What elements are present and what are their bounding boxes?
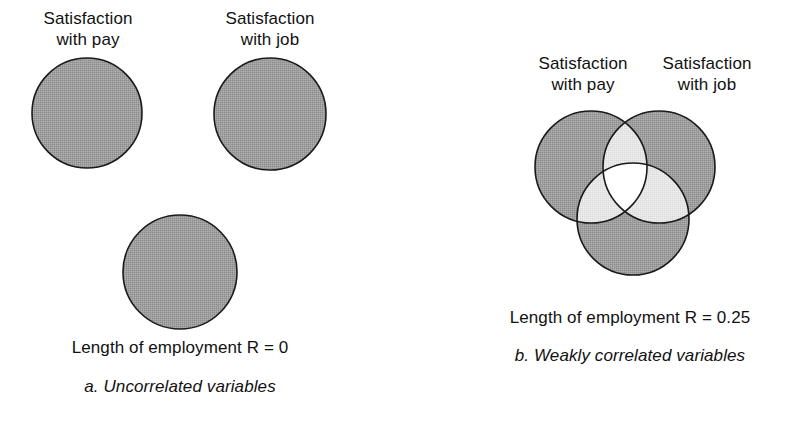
panel-b-title-caption: b. Weakly correlated variables xyxy=(480,345,780,366)
panel-a-circle-satisfaction-with-pay xyxy=(32,58,142,168)
panel-a-title-caption: a. Uncorrelated variables xyxy=(0,376,360,397)
panel-a-circle-satisfaction-with-job xyxy=(214,58,326,170)
panel-weakly-correlated: Satisfaction with pay Satisfaction with … xyxy=(400,0,799,423)
panel-a-correlation-caption: Length of employment R = 0 xyxy=(0,337,360,358)
panel-b-correlation-caption: Length of employment R = 0.25 xyxy=(480,307,780,328)
figure-venn-correlation: Satisfaction with pay Satisfaction with … xyxy=(0,0,799,423)
panel-uncorrelated: Satisfaction with pay Satisfaction with … xyxy=(0,0,400,423)
panel-a-venn-graphic xyxy=(0,0,400,423)
panel-a-circle-length-of-employment xyxy=(123,215,237,329)
